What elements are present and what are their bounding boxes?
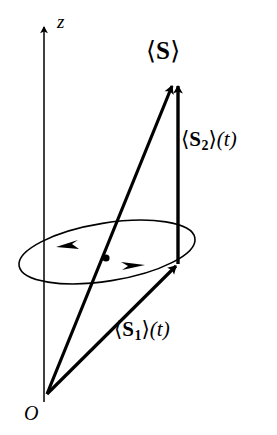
- orbit-arrow-right-icon: [121, 262, 145, 270]
- spin-component-2-symbol: S: [189, 127, 201, 151]
- angle-bracket-close-icon: ⟩: [208, 127, 216, 151]
- precession-ellipse: [15, 209, 200, 294]
- spin-component-2-label: ⟨S2⟩(t): [181, 129, 237, 153]
- angle-bracket-close-icon: ⟩: [141, 317, 149, 341]
- orbit-arrow-left-icon: [56, 240, 79, 249]
- spin-component-1-symbol: S: [122, 317, 134, 341]
- spin-component-2-time-arg: (t): [217, 127, 237, 151]
- spin-precession-figure: z O ⟨S⟩ ⟨S2⟩(t) ⟨S1⟩(t): [0, 0, 277, 435]
- z-axis-label: z: [57, 12, 64, 31]
- angle-bracket-close-icon: ⟩: [170, 36, 180, 65]
- spin-component-1-label: ⟨S1⟩(t): [114, 319, 170, 343]
- origin-label: O: [24, 403, 38, 423]
- figure-canvas: [0, 0, 277, 435]
- mean-spin-vector-label: ⟨S⟩: [146, 38, 180, 64]
- mean-spin-symbol: S: [156, 37, 170, 64]
- spin-component-1-time-arg: (t): [150, 317, 170, 341]
- mean-spin-vector-S: [47, 86, 172, 394]
- angle-bracket-open-icon: ⟨: [146, 36, 156, 65]
